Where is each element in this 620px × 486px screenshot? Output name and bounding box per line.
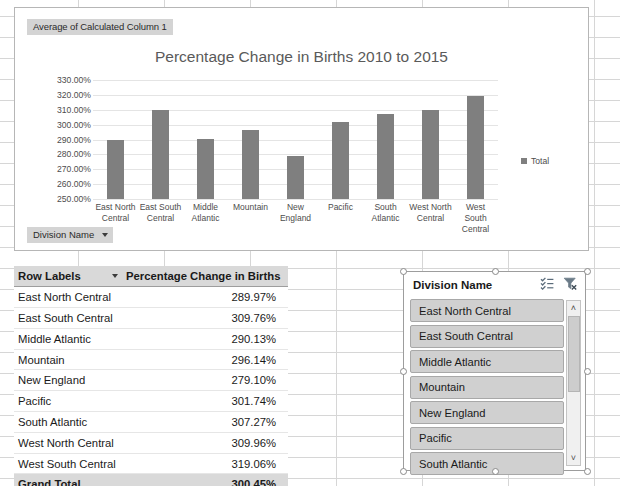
value-cell: 319.06% [122,453,288,474]
bar-slot [183,80,228,199]
slicer-division-name[interactable]: Division Name East North Central [403,271,586,471]
table-row[interactable]: West North Central309.96% [14,432,288,453]
column-header-percentage-change[interactable]: Percentage Change in Births [122,266,288,287]
bar-slot [273,80,318,199]
resize-handle-middle-left[interactable] [400,368,407,375]
bar[interactable] [152,110,169,199]
table-row[interactable]: New England279.10% [14,370,288,391]
column-header-row-labels[interactable]: Row Labels [14,266,122,287]
resize-handle-top-left[interactable] [400,268,407,275]
row-label-cell: Pacific [14,391,122,412]
pivot-table[interactable]: Row Labels Percentage Change in Births E… [14,266,288,486]
bar-slot [93,80,138,199]
grand-total-row: Grand Total300.45% [14,474,288,486]
table-row[interactable]: East North Central289.97% [14,287,288,308]
row-label-cell: Middle Atlantic [14,328,122,349]
bar[interactable] [197,139,214,199]
bar[interactable] [242,130,259,199]
resize-handle-middle-right[interactable] [584,368,591,375]
x-axis-category-labels: East North CentralEast South CentralMidd… [93,202,498,235]
bar[interactable] [332,122,349,199]
row-label-cell: West North Central [14,432,122,453]
value-cell: 307.27% [122,412,288,433]
resize-handle-bottom-center[interactable] [492,468,499,475]
y-axis-tick-labels: 330.00%320.00%310.00%300.00%290.00%280.0… [29,74,91,205]
clear-filter-icon[interactable] [563,276,577,294]
value-cell: 309.76% [122,308,288,329]
value-cell: 290.13% [122,328,288,349]
bar-slot [138,80,183,199]
slicer-item[interactable]: Pacific [410,427,564,450]
bar[interactable] [287,156,304,199]
resize-handle-top-center[interactable] [492,268,499,275]
x-axis-category-label: Middle Atlantic [183,202,228,235]
column-header-label: Percentage Change in Births [126,270,280,282]
y-axis-tick-label: 320.00% [57,90,91,100]
x-axis-category-label: West North Central [408,202,453,235]
bar-slot [363,80,408,199]
value-cell: 279.10% [122,370,288,391]
pivot-value-field-button[interactable]: Average of Calculated Column 1 [27,19,173,35]
bar-slot [318,80,363,199]
table-row[interactable]: Middle Atlantic290.13% [14,328,288,349]
x-axis-category-label: South Atlantic [363,202,408,235]
bar-slot [453,80,498,199]
y-axis-tick-label: 300.00% [57,120,91,130]
table-row[interactable]: West South Central319.06% [14,453,288,474]
column-header-label: Row Labels [18,270,81,282]
resize-handle-bottom-right[interactable] [584,468,591,475]
table-row[interactable]: Mountain296.14% [14,349,288,370]
bar-slot [228,80,273,199]
gridline [93,199,498,200]
row-label-cell: East South Central [14,308,122,329]
slicer-item[interactable]: Middle Atlantic [410,350,564,373]
legend-swatch-total [521,158,527,164]
slicer-item-list[interactable]: East North CentralEast South CentralMidd… [410,299,564,478]
table-row[interactable]: South Atlantic307.27% [14,412,288,433]
x-axis-category-label: West South Central [453,202,498,235]
y-axis-tick-label: 260.00% [57,179,91,189]
legend-label-total: Total [531,156,549,166]
chart-title: Percentage Change in Births 2010 to 2015 [15,48,588,66]
y-axis-tick-label: 310.00% [57,105,91,115]
multi-select-icon[interactable] [540,276,554,294]
scroll-down-arrow-icon[interactable]: ˅ [567,451,580,465]
slicer-item[interactable]: East North Central [410,299,564,322]
slicer-item[interactable]: South Atlantic [410,452,564,475]
bar[interactable] [377,114,394,199]
slicer-scrollbar[interactable]: ˄ ˅ [566,300,581,466]
row-label-cell: East North Central [14,287,122,308]
row-label-cell: South Atlantic [14,412,122,433]
y-axis-tick-label: 290.00% [57,135,91,145]
bar-slot [408,80,453,199]
resize-handle-top-right[interactable] [584,268,591,275]
resize-handle-bottom-left[interactable] [400,468,407,475]
value-cell: 301.74% [122,391,288,412]
y-axis-tick-label: 280.00% [57,149,91,159]
slicer-item[interactable]: New England [410,401,564,424]
x-axis-category-label: New England [273,202,318,235]
value-cell: 309.96% [122,432,288,453]
table-body: East North Central289.97%East South Cent… [14,287,288,486]
table-row[interactable]: East South Central309.76% [14,308,288,329]
table-row[interactable]: Pacific301.74% [14,391,288,412]
chevron-down-icon[interactable] [102,233,108,237]
filter-chevron-down-icon[interactable] [112,274,118,278]
slicer-item[interactable]: Mountain [410,376,564,399]
grand-total-label: Grand Total [14,474,122,486]
pivot-chart[interactable]: Average of Calculated Column 1 Percentag… [14,7,589,251]
value-cell: 296.14% [122,349,288,370]
scroll-up-arrow-icon[interactable]: ˄ [567,301,580,315]
slicer-item[interactable]: East South Central [410,325,564,348]
axis-field-button[interactable]: Division Name [27,227,113,243]
y-axis-tick-label: 270.00% [57,164,91,174]
slicer-header: Division Name [404,272,585,298]
bar[interactable] [107,140,124,199]
bar[interactable] [467,96,484,199]
bar-series [93,80,498,199]
y-axis-tick-label: 250.00% [57,194,91,204]
axis-field-label: Division Name [33,229,94,240]
bar[interactable] [422,110,439,199]
scrollbar-thumb[interactable] [568,316,580,392]
chart-legend: Total [521,156,549,166]
